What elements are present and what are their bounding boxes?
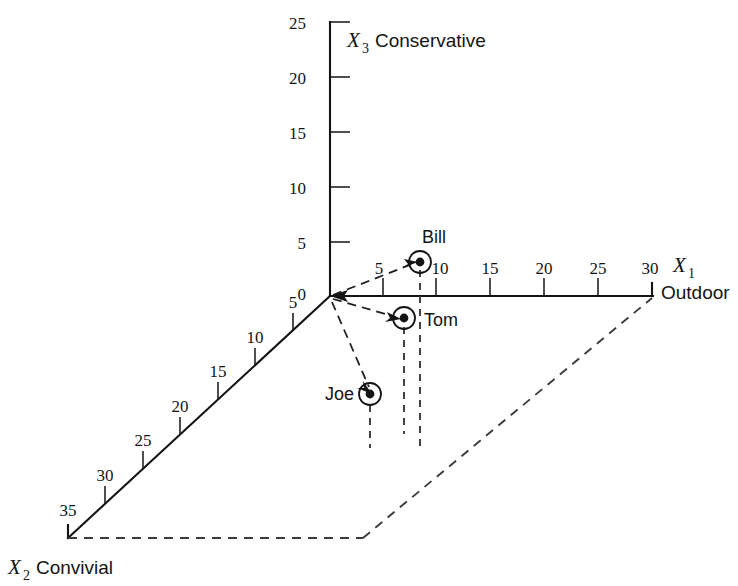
axis-x2-ticklabel-5: 5 — [289, 293, 298, 312]
axis-x2-ticklabel-30: 30 — [97, 466, 114, 485]
axis-x1-ticklabel-20: 20 — [536, 259, 553, 278]
data-point-joe[interactable] — [359, 383, 381, 405]
plot-canvas: 25 20 15 10 5 0 5 10 15 20 25 30 5 10 15… — [0, 0, 738, 586]
axis-x2-var: X — [7, 555, 22, 579]
point-label-bill: Bill — [422, 227, 446, 247]
axis-x1-ticklabel-15: 15 — [482, 259, 499, 278]
ray-to-joe — [332, 302, 369, 387]
point-label-joe: Joe — [325, 384, 354, 404]
marker-dot-joe — [366, 390, 375, 399]
axis-x1-name: Outdoor — [661, 282, 730, 303]
axis-x2-ticklabel-15: 15 — [210, 362, 227, 381]
axis-x2-ticklabel-35: 35 — [60, 501, 77, 520]
origin-label: 0 — [298, 285, 307, 304]
axis-x3-ticklabel-25: 25 — [289, 14, 306, 33]
axis-x1-outdoor — [330, 278, 653, 296]
axis-x2-convivial — [68, 296, 330, 538]
axis-x3-conservative — [330, 22, 350, 296]
three-dimensional-scatter-figure: 25 20 15 10 5 0 5 10 15 20 25 30 5 10 15… — [0, 0, 738, 586]
axis-x2-name: Convivial — [36, 557, 113, 578]
ray-to-tom — [333, 299, 396, 317]
origin-rays — [332, 259, 418, 394]
axis-x2-ticklabel-25: 25 — [135, 431, 152, 450]
axis-x1-ticklabel-30: 30 — [642, 259, 659, 278]
axis-x2-title: X 2 Convivial — [7, 555, 113, 583]
point-label-tom: Tom — [424, 310, 458, 330]
axis-x3-ticklabel-20: 20 — [289, 69, 306, 88]
axis-x3-name: Conservative — [375, 30, 486, 51]
axis-x2-subscript: 2 — [23, 568, 30, 583]
axis-x3-title: X 3 Conservative — [346, 28, 486, 56]
base-plane-right-edge — [363, 298, 652, 538]
axis-x1-subscript: 1 — [688, 266, 695, 281]
axis-x3-ticklabel-10: 10 — [289, 179, 306, 198]
axis-x3-var: X — [346, 28, 361, 52]
axis-x3-ticklabel-5: 5 — [298, 234, 307, 253]
axis-x1-var: X — [672, 253, 687, 277]
axis-x2-ticklabel-20: 20 — [172, 397, 189, 416]
axis-x3-ticklabel-15: 15 — [289, 124, 306, 143]
axis-x2-ticklabel-10: 10 — [247, 328, 264, 347]
base-plane-outline — [68, 298, 652, 538]
axis-x3-subscript: 3 — [362, 41, 369, 56]
axis-x1-ticklabel-25: 25 — [590, 259, 607, 278]
axis-x1-ticklabel-10: 10 — [432, 259, 449, 278]
ray-to-bill — [333, 264, 412, 295]
marker-dot-bill — [416, 258, 425, 267]
marker-dot-tom — [400, 314, 409, 323]
axis-x2-line — [68, 296, 330, 538]
axis-x1-ticklabel-5: 5 — [375, 259, 384, 278]
axis-x1-title: X 1 Outdoor — [661, 253, 730, 303]
